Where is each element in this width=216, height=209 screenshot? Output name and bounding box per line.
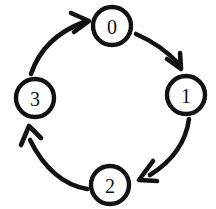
- node-2-label: 2: [105, 175, 115, 197]
- cycle-diagram: 0 1 2 3: [0, 0, 216, 209]
- edge-3-to-0: [31, 13, 89, 74]
- edge-0-to-1: [136, 34, 181, 69]
- edge-2-to-3: [21, 126, 87, 189]
- cycle-diagram-canvas: 0 1 2 3: [0, 0, 216, 209]
- edge-2-to-3-line: [30, 140, 87, 189]
- edge-1-to-2-line: [150, 119, 189, 175]
- node-1-label: 1: [181, 85, 191, 107]
- node-3[interactable]: 3: [16, 79, 54, 117]
- edge-1-to-2: [139, 119, 189, 181]
- node-1[interactable]: 1: [167, 76, 205, 114]
- node-2[interactable]: 2: [91, 166, 129, 204]
- node-0[interactable]: 0: [93, 7, 131, 45]
- node-0-label: 0: [107, 16, 117, 38]
- node-3-label: 3: [30, 88, 40, 110]
- edge-0-to-1-line: [136, 34, 179, 64]
